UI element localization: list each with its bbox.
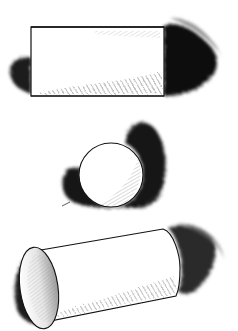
cylinder-shape — [14, 223, 224, 331]
block-shape — [10, 18, 222, 96]
sketch-canvas — [0, 0, 238, 331]
sphere-shape — [62, 123, 166, 208]
ink-drawing — [0, 0, 238, 331]
